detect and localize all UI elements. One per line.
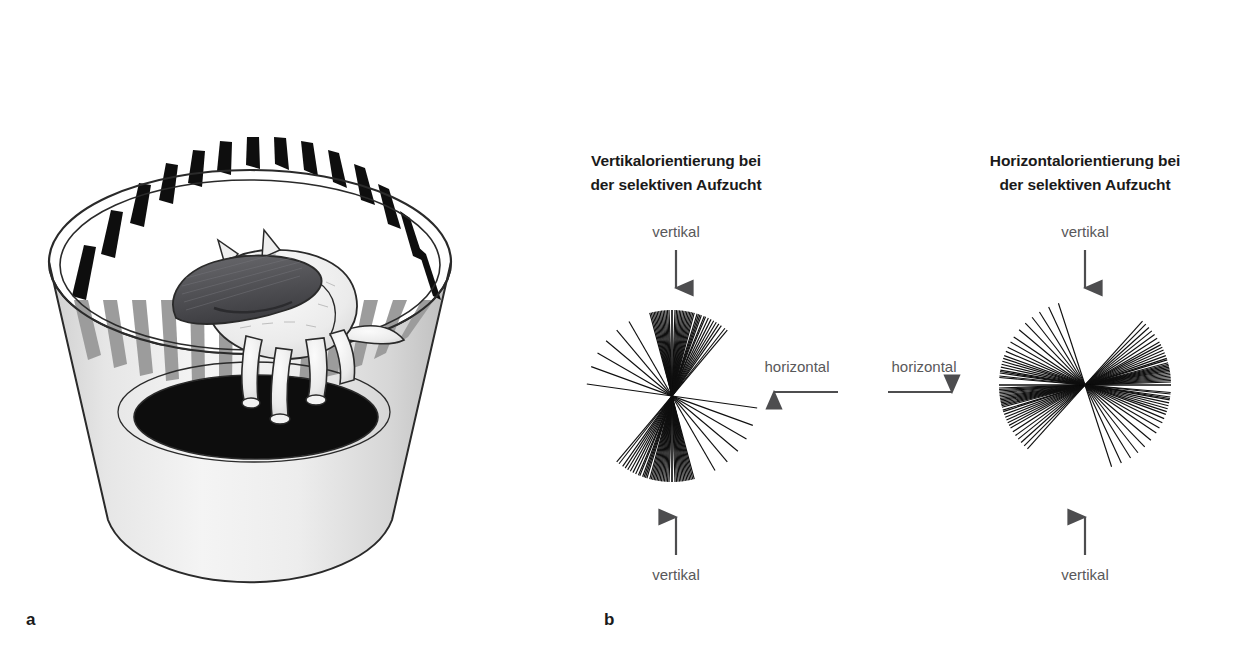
panel-a-striped-drum: a (0, 0, 500, 659)
panel-b-fan-diagrams: Vertikalorientierung bei der selektiven … (500, 0, 1243, 659)
axis-label-bottom-vertical: vertikal (652, 566, 700, 583)
drum-illustration (0, 0, 500, 659)
chart-title-line1-vertical: Vertikalorientierung bei (591, 152, 761, 169)
fan-lines-horizontal-reared (999, 303, 1171, 467)
chart-title-line2-horizontal: der selektiven Aufzucht (999, 176, 1170, 193)
chart-vertical-reared: Vertikalorientierung bei der selektiven … (587, 152, 838, 583)
figure-root: a Vertikalorientierung bei der selektive… (0, 0, 1243, 659)
chart-title-line1-horizontal: Horizontalorientierung bei (990, 152, 1180, 169)
fan-lines-vertical-reared (587, 310, 757, 482)
chart-title-line2-vertical: der selektiven Aufzucht (590, 176, 761, 193)
axis-label-top-horizontal: vertikal (1061, 223, 1109, 240)
axis-label-side-vertical: horizontal (764, 358, 829, 375)
fan-diagrams-svg: Vertikalorientierung bei der selektiven … (500, 0, 1243, 659)
panel-letter-b: b (604, 610, 614, 630)
axis-label-side-horizontal: horizontal (891, 358, 956, 375)
chart-horizontal-reared: Horizontalorientierung bei der selektive… (888, 152, 1180, 583)
axis-label-bottom-horizontal: vertikal (1061, 566, 1109, 583)
panel-letter-a: a (26, 610, 35, 630)
axis-label-top-vertical: vertikal (652, 223, 700, 240)
